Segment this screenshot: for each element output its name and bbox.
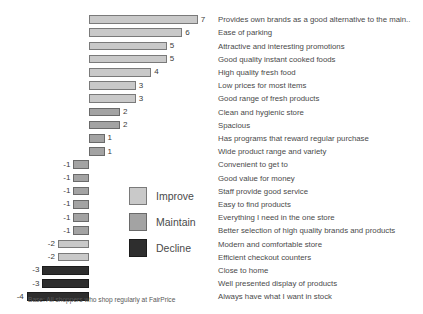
bar	[89, 68, 151, 77]
bar-value-label: -1	[0, 172, 70, 183]
bar-value-label: 7	[201, 14, 205, 25]
chart-row: 2Spacious	[0, 120, 423, 133]
legend-swatch-improve	[129, 187, 147, 205]
category-label: Close to home	[218, 265, 268, 276]
category-label: Well presented display of products	[218, 278, 337, 289]
category-label: Good range of fresh products	[218, 93, 319, 104]
category-label: Attractive and interesting promotions	[218, 41, 345, 52]
category-label: Has programs that reward regular purchas…	[218, 133, 369, 144]
bar-value-label: -2	[0, 238, 55, 249]
chart-row: 3Low prices for most items	[0, 80, 423, 93]
bar-value-label: 4	[154, 66, 158, 77]
bar	[73, 226, 89, 235]
category-label: Easy to find products	[218, 199, 291, 210]
bar	[42, 266, 89, 275]
chart-row: -3Close to home	[0, 265, 423, 278]
bar	[89, 28, 182, 37]
chart-row: 1Has programs that reward regular purcha…	[0, 133, 423, 146]
legend-label: Maintain	[156, 215, 196, 229]
bar	[89, 147, 105, 156]
chart-row: -3Well presented display of products	[0, 278, 423, 291]
bar-value-label: 5	[170, 40, 174, 51]
bar	[89, 121, 120, 130]
legend-swatch-maintain	[129, 213, 147, 231]
category-label: Good quality instant cooked foods	[218, 54, 335, 65]
chart-row: -1Staff provide good service	[0, 186, 423, 199]
chart-row: -1Good value for money	[0, 172, 423, 185]
bar-value-label: 5	[170, 53, 174, 64]
category-label: Modern and comfortable store	[218, 239, 322, 250]
bar-value-label: 2	[123, 106, 127, 117]
category-label: Provides own brands as a good alternativ…	[218, 14, 410, 25]
bar-value-label: 1	[108, 132, 112, 143]
chart-row: 6Ease of parking	[0, 27, 423, 40]
chart-row: -1Everything I need in the one store	[0, 212, 423, 225]
bar-value-label: -1	[0, 198, 70, 209]
chart-row: 4High quality fresh food	[0, 67, 423, 80]
bar-value-label: 1	[108, 146, 112, 157]
bar-value-label: 3	[139, 93, 143, 104]
category-label: Spacious	[218, 120, 250, 131]
bar-value-label: -4	[0, 291, 24, 302]
chart-row: -2Efficient checkout counters	[0, 252, 423, 265]
bar	[89, 94, 136, 103]
bar	[58, 240, 89, 249]
chart-row: -2Modern and comfortable store	[0, 238, 423, 251]
category-label: Convenient to get to	[218, 159, 288, 170]
category-label: Everything I need in the one store	[218, 212, 335, 223]
bar-value-label: -1	[0, 185, 70, 196]
legend-label: Decline	[156, 241, 191, 255]
category-label: Low prices for most items	[218, 80, 306, 91]
bar-value-label: -3	[0, 278, 39, 289]
chart-row: -1Better selection of high quality brand…	[0, 225, 423, 238]
category-label: Ease of parking	[218, 27, 272, 38]
bar-value-label: 6	[185, 27, 189, 38]
category-label: Clean and hygienic store	[218, 107, 304, 118]
bar	[73, 187, 89, 196]
bar-value-label: -2	[0, 251, 55, 262]
category-label: Wide product range and variety	[218, 146, 326, 157]
bar-chart: 7Provides own brands as a good alternati…	[0, 0, 423, 314]
category-label: High quality fresh food	[218, 67, 296, 78]
chart-row: 5Good quality instant cooked foods	[0, 54, 423, 67]
chart-footnote: Base: All shoppers who shop regularly at…	[28, 295, 175, 304]
bar-value-label: -1	[0, 225, 70, 236]
bar-value-label: -1	[0, 159, 70, 170]
category-label: Always have what I want in stock	[218, 291, 332, 302]
bar-value-label: -3	[0, 264, 39, 275]
bar	[89, 81, 136, 90]
bar	[89, 108, 120, 117]
bar	[58, 253, 89, 262]
category-label: Better selection of high quality brands …	[218, 225, 395, 236]
bar-value-label: 3	[139, 80, 143, 91]
category-label: Staff provide good service	[218, 186, 308, 197]
chart-row: 2Clean and hygienic store	[0, 106, 423, 119]
bar	[89, 42, 167, 51]
legend-label: Improve	[156, 189, 194, 203]
legend-swatch-decline	[129, 239, 147, 257]
bar	[73, 160, 89, 169]
bar	[89, 134, 105, 143]
chart-row: 5Attractive and interesting promotions	[0, 40, 423, 53]
bar-value-label: 2	[123, 119, 127, 130]
chart-row: 3Good range of fresh products	[0, 93, 423, 106]
bar	[73, 200, 89, 209]
category-label: Good value for money	[218, 173, 295, 184]
bar	[42, 279, 89, 288]
bar	[89, 55, 167, 64]
chart-row: 1Wide product range and variety	[0, 146, 423, 159]
chart-row: 7Provides own brands as a good alternati…	[0, 14, 423, 27]
bar-value-label: -1	[0, 212, 70, 223]
bar	[73, 174, 89, 183]
chart-row: -1Easy to find products	[0, 199, 423, 212]
category-label: Efficient checkout counters	[218, 252, 311, 263]
bar	[73, 213, 89, 222]
bar	[89, 15, 198, 24]
chart-row: -1Convenient to get to	[0, 159, 423, 172]
